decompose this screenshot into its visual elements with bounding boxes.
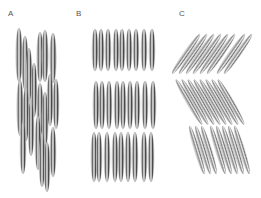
panel-b-rods xyxy=(91,29,156,182)
rod-b xyxy=(105,29,111,71)
rod-a xyxy=(16,28,22,82)
rod-c xyxy=(222,33,254,75)
rod-b xyxy=(92,29,98,71)
rod-b xyxy=(99,81,105,129)
panel-c-rods xyxy=(170,33,254,175)
rod-a xyxy=(47,74,53,126)
rod-b xyxy=(114,81,120,129)
rod-b xyxy=(132,132,138,182)
rod-arrangement-figure: A B C xyxy=(0,0,261,198)
rod-b xyxy=(113,29,119,71)
rod-b xyxy=(134,81,140,129)
rod-b xyxy=(149,29,155,71)
panel-a-rods xyxy=(16,28,59,192)
rod-a xyxy=(20,122,26,174)
rod-a xyxy=(28,100,34,156)
rod-b xyxy=(127,81,133,129)
panel-c-label: C xyxy=(179,10,185,18)
rod-a xyxy=(42,30,48,82)
rod-b xyxy=(104,132,110,182)
rod-b xyxy=(126,29,132,71)
rod-b xyxy=(148,132,154,182)
rod-a xyxy=(53,79,59,129)
rod-a xyxy=(44,142,50,192)
rod-b xyxy=(142,81,148,129)
rod-b xyxy=(98,29,104,71)
rod-b xyxy=(119,29,125,71)
rod-b xyxy=(96,132,102,182)
rod-b xyxy=(118,132,124,182)
panel-a-label: A xyxy=(8,10,13,18)
rod-b xyxy=(106,81,112,129)
rod-a xyxy=(50,127,56,177)
rod-b xyxy=(112,132,118,182)
rod-b xyxy=(141,29,147,71)
rod-b xyxy=(125,132,131,182)
figure-canvas xyxy=(0,0,261,198)
rod-b xyxy=(120,81,126,129)
rod-b xyxy=(141,132,147,182)
rod-b xyxy=(133,29,139,71)
rod-b xyxy=(150,81,156,129)
panel-b-label: B xyxy=(76,10,81,18)
rod-b xyxy=(93,81,99,129)
